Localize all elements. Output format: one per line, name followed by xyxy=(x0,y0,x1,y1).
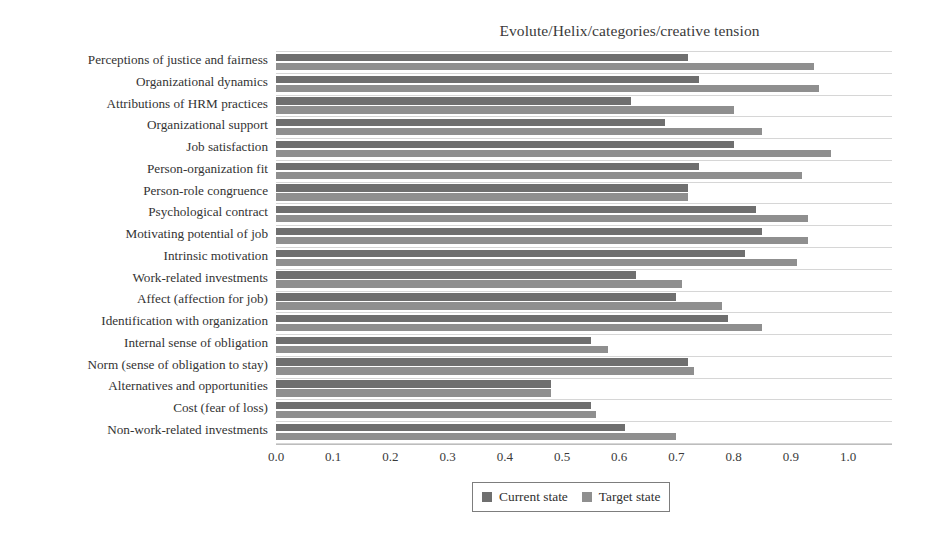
gridline xyxy=(276,269,892,270)
bar-current-state xyxy=(276,380,551,387)
bar-group xyxy=(276,357,848,379)
chart-row: Norm (sense of obligation to stay) xyxy=(0,357,927,379)
bar-current-state xyxy=(276,54,688,61)
bar-group xyxy=(276,226,848,248)
x-tick-label: 1.0 xyxy=(828,449,868,465)
category-label: Organizational dynamics xyxy=(18,72,268,92)
gridline xyxy=(276,291,892,292)
gridline xyxy=(276,160,892,161)
category-label: Attributions of HRM practices xyxy=(18,94,268,114)
bar-current-state xyxy=(276,76,699,83)
chart-row: Internal sense of obligation xyxy=(0,335,927,357)
bar-group xyxy=(276,117,848,139)
category-label: Work-related investments xyxy=(18,268,268,288)
bar-group xyxy=(276,313,848,335)
bar-current-state xyxy=(276,293,676,300)
chart-row: Intrinsic motivation xyxy=(0,248,927,270)
bar-chart: Evolute/Helix/categories/creative tensio… xyxy=(0,0,927,541)
bar-group xyxy=(276,291,848,313)
x-tick-label: 0.4 xyxy=(485,449,525,465)
category-label: Psychological contract xyxy=(18,202,268,222)
bar-target-state xyxy=(276,324,762,331)
bar-current-state xyxy=(276,271,636,278)
bar-group xyxy=(276,422,848,444)
bar-current-state xyxy=(276,141,734,148)
legend-item[interactable]: Target state xyxy=(582,489,661,505)
category-label: Organizational support xyxy=(18,115,268,135)
legend-label: Target state xyxy=(599,489,661,505)
category-label: Motivating potential of job xyxy=(18,224,268,244)
category-label: Internal sense of obligation xyxy=(18,333,268,353)
bar-target-state xyxy=(276,193,688,200)
x-tick-label: 0.9 xyxy=(771,449,811,465)
bar-target-state xyxy=(276,106,734,113)
gridline xyxy=(276,378,892,379)
x-tick-label: 0.6 xyxy=(599,449,639,465)
chart-row: Alternatives and opportunities xyxy=(0,378,927,400)
x-tick-label: 0.2 xyxy=(370,449,410,465)
bar-target-state xyxy=(276,150,831,157)
gridline xyxy=(276,356,892,357)
bar-current-state xyxy=(276,119,665,126)
bar-group xyxy=(276,52,848,74)
bar-group xyxy=(276,400,848,422)
bar-target-state xyxy=(276,215,808,222)
category-label: Alternatives and opportunities xyxy=(18,376,268,396)
gridline xyxy=(276,138,892,139)
bar-group xyxy=(276,204,848,226)
bar-target-state xyxy=(276,433,676,440)
bar-target-state xyxy=(276,389,551,396)
gridline xyxy=(276,51,892,52)
chart-row: Person-role congruence xyxy=(0,183,927,205)
chart-row: Cost (fear of loss) xyxy=(0,400,927,422)
category-label: Norm (sense of obligation to stay) xyxy=(18,355,268,375)
bar-target-state xyxy=(276,302,722,309)
bar-current-state xyxy=(276,250,745,257)
chart-legend[interactable]: Current stateTarget state xyxy=(472,482,670,512)
bar-group xyxy=(276,96,848,118)
gridline xyxy=(276,116,892,117)
x-tick-label: 0.8 xyxy=(714,449,754,465)
bar-current-state xyxy=(276,184,688,191)
bar-target-state xyxy=(276,411,596,418)
category-label: Cost (fear of loss) xyxy=(18,398,268,418)
gridline xyxy=(276,312,892,313)
chart-title: Evolute/Helix/categories/creative tensio… xyxy=(0,22,927,40)
category-label: Perceptions of justice and fairness xyxy=(18,50,268,70)
chart-row: Identification with organization xyxy=(0,313,927,335)
category-label: Person-role congruence xyxy=(18,181,268,201)
chart-row: Perceptions of justice and fairness xyxy=(0,52,927,74)
chart-row: Psychological contract xyxy=(0,204,927,226)
x-tick-label: 0.7 xyxy=(656,449,696,465)
category-label: Non-work-related investments xyxy=(18,420,268,440)
bar-group xyxy=(276,139,848,161)
chart-title-text: Evolute/Helix/categories/creative tensio… xyxy=(499,22,759,39)
legend-item[interactable]: Current state xyxy=(482,489,568,505)
bar-current-state xyxy=(276,228,762,235)
category-rows: Perceptions of justice and fairnessOrgan… xyxy=(0,52,927,444)
bar-current-state xyxy=(276,206,756,213)
x-tick-label: 0.3 xyxy=(428,449,468,465)
bar-group xyxy=(276,161,848,183)
chart-row: Job satisfaction xyxy=(0,139,927,161)
bar-group xyxy=(276,335,848,357)
bar-current-state xyxy=(276,163,699,170)
chart-row: Non-work-related investments xyxy=(0,422,927,444)
chart-row: Organizational support xyxy=(0,117,927,139)
bar-target-state xyxy=(276,280,682,287)
bar-target-state xyxy=(276,259,797,266)
gridline xyxy=(276,247,892,248)
bar-target-state xyxy=(276,85,819,92)
chart-row: Person-organization fit xyxy=(0,161,927,183)
category-label: Job satisfaction xyxy=(18,137,268,157)
bar-target-state xyxy=(276,367,694,374)
bar-target-state xyxy=(276,237,808,244)
bar-target-state xyxy=(276,346,608,353)
category-label: Person-organization fit xyxy=(18,159,268,179)
bar-target-state xyxy=(276,172,802,179)
x-tick-label: 0.5 xyxy=(542,449,582,465)
category-label: Identification with organization xyxy=(18,311,268,331)
chart-row: Attributions of HRM practices xyxy=(0,96,927,118)
x-tick-label: 0.1 xyxy=(313,449,353,465)
square-swatch-dark-icon xyxy=(482,492,492,502)
